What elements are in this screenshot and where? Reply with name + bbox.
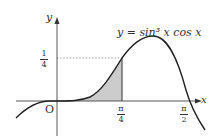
y-axis-label: y (46, 11, 52, 24)
y-tick-one-quarter: 1 4 (40, 50, 48, 69)
y-axis-arrow-icon (55, 17, 60, 24)
shaded-area (57, 58, 122, 101)
x-tick-den: 4 (118, 116, 123, 124)
y-tick-den: 4 (41, 61, 46, 69)
x-tick-den: 2 (181, 116, 186, 124)
x-tick-pi-over-2: π 2 (180, 105, 188, 124)
x-tick-num: π (118, 105, 123, 113)
x-axis-label: x (201, 94, 207, 105)
x-tick-num: π (181, 105, 186, 113)
x-tick-pi-over-4: π 4 (117, 105, 125, 124)
equation-label: y = sin³ x cos x (117, 26, 201, 39)
y-tick-num: 1 (41, 50, 46, 58)
origin-label: O (45, 103, 54, 116)
